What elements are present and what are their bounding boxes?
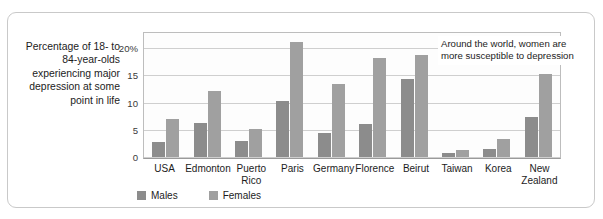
- x-axis-category-label: Beirut: [395, 163, 436, 187]
- bar-female: [539, 74, 552, 157]
- bar-male: [525, 117, 538, 157]
- x-axis-category-label: Puerto Rico: [231, 163, 272, 187]
- x-axis-category-label: Germany: [313, 163, 354, 187]
- bar-female: [166, 119, 179, 158]
- legend-label: Females: [223, 190, 261, 201]
- x-axis-category-label: New Zealand: [519, 163, 560, 187]
- bar-group: [269, 34, 310, 157]
- bar-group: [352, 34, 393, 157]
- bar-male: [318, 133, 331, 157]
- y-axis-tick-label: 10: [127, 97, 138, 108]
- bar-group: [145, 34, 186, 157]
- y-axis-tick-label: 20%: [119, 43, 138, 54]
- bar-male: [442, 153, 455, 157]
- chart-annotation: Around the world, women are more suscept…: [438, 36, 578, 65]
- bar-female: [373, 58, 386, 157]
- bar-group: [228, 34, 269, 157]
- legend-swatch-icon: [209, 191, 218, 200]
- x-axis-category-label: Florence: [354, 163, 395, 187]
- bar-group: [311, 34, 352, 157]
- x-axis-category-label: Edmonton: [185, 163, 231, 187]
- bar-group: [393, 34, 434, 157]
- y-axis-tick-label: 15: [127, 70, 138, 81]
- chart-figure: Percentage of 18- to 84-year-olds experi…: [0, 0, 603, 219]
- y-axis-caption: Percentage of 18- to 84-year-olds experi…: [16, 40, 120, 107]
- bar-male: [194, 123, 207, 157]
- bar-female: [456, 150, 469, 157]
- bar-male: [401, 79, 414, 157]
- bar-male: [359, 124, 372, 157]
- legend-item: Females: [209, 190, 261, 201]
- x-axis-category-label: Korea: [478, 163, 519, 187]
- bar-female: [208, 91, 221, 157]
- x-axis-category-label: USA: [144, 163, 185, 187]
- bar-male: [276, 101, 289, 157]
- legend-item: Males: [137, 190, 178, 201]
- legend-label: Males: [151, 190, 178, 201]
- gridline: 0: [144, 157, 560, 158]
- x-axis-labels: USAEdmontonPuerto RicoParisGermanyFloren…: [144, 163, 560, 187]
- y-axis-tick-label: 0: [133, 152, 138, 163]
- x-axis-category-label: Taiwan: [437, 163, 478, 187]
- chart-legend: MalesFemales: [137, 190, 283, 201]
- bar-male: [152, 142, 165, 157]
- bar-female: [249, 129, 262, 157]
- bar-group: [186, 34, 227, 157]
- bar-male: [235, 141, 248, 157]
- bar-male: [483, 149, 496, 157]
- y-axis-tick-label: 5: [133, 124, 138, 135]
- bar-female: [332, 84, 345, 157]
- bar-female: [497, 139, 510, 157]
- x-axis-category-label: Paris: [272, 163, 313, 187]
- bar-female: [415, 55, 428, 157]
- legend-swatch-icon: [137, 191, 146, 200]
- bar-female: [290, 42, 303, 157]
